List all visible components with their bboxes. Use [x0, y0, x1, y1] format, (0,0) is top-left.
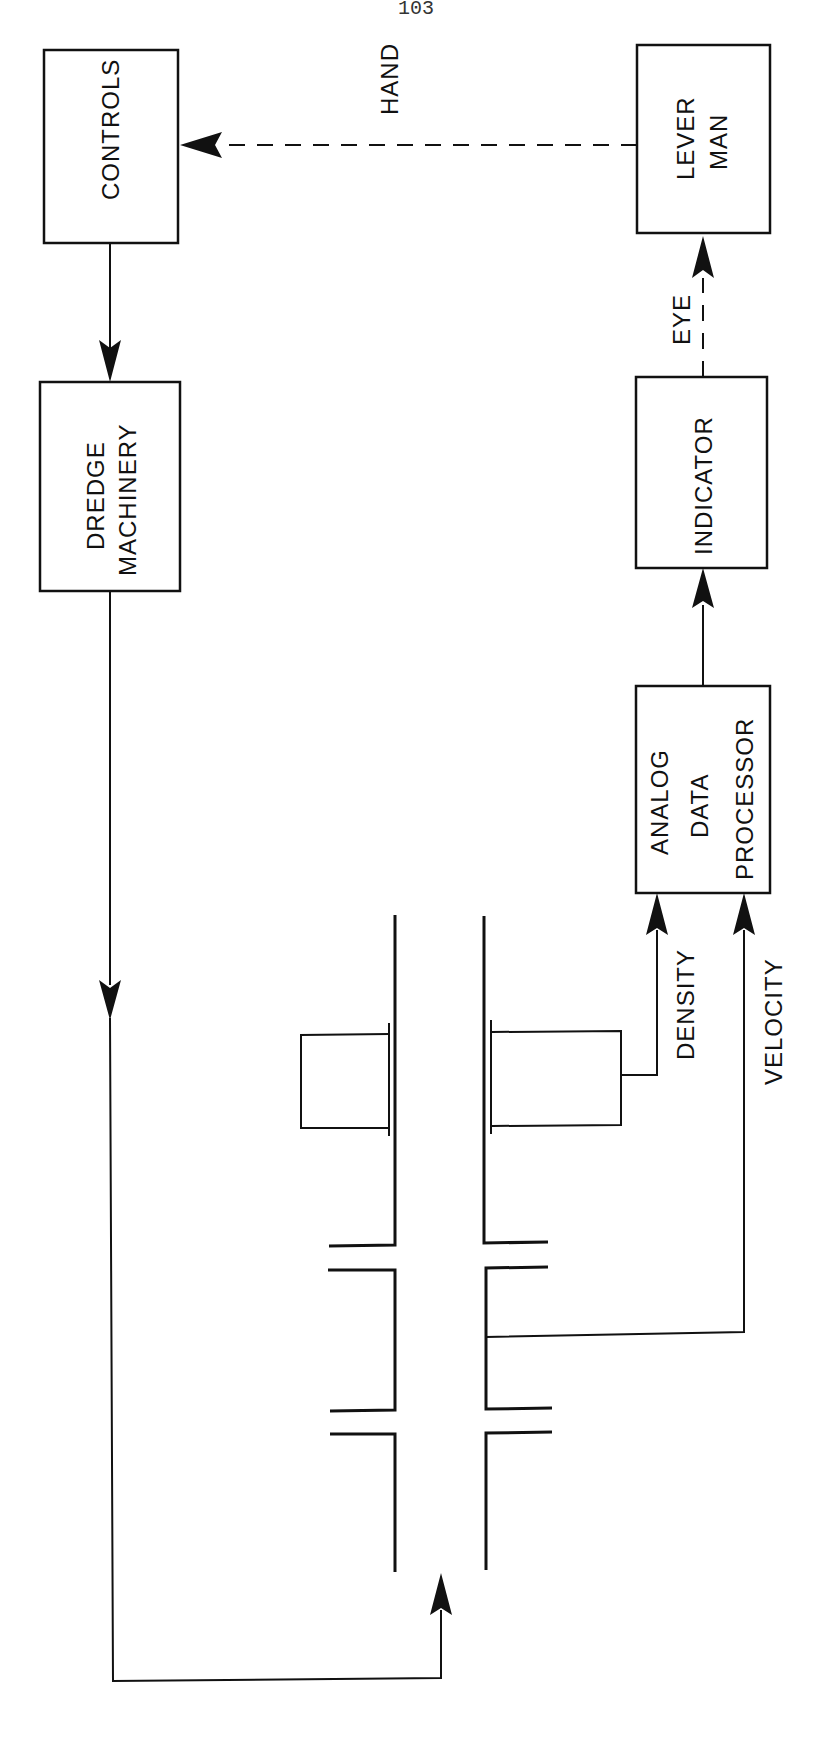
dredge-to-pipeline-link [99, 591, 452, 1681]
processor-to-indicator-link [692, 568, 714, 686]
arrowhead-up-icon [692, 236, 714, 278]
processor-label-line2: DATA [686, 774, 713, 838]
eye-label: EYE [668, 294, 695, 345]
dredge-machinery-block: DREDGE MACHINERY [40, 382, 180, 591]
processor-label-line3: PROCESSOR [731, 718, 758, 880]
analog-data-processor-block: ANALOG DATA PROCESSOR [636, 686, 770, 893]
arrowhead-up-icon [430, 1573, 452, 1615]
hand-signal: HAND [180, 43, 637, 158]
dredge-control-diagram: 103 CONTROLS HAND LEVER MAN DREDGE MACHI… [0, 0, 818, 1745]
velocity-label: VELOCITY [760, 958, 787, 1085]
dredge-label-line1: DREDGE [82, 441, 109, 550]
indicator-block: INDICATOR [636, 377, 767, 568]
velocity-signal: VELOCITY [486, 893, 787, 1337]
lever-man-block: LEVER MAN [637, 45, 770, 233]
lever-man-label-line1: LEVER [672, 96, 699, 180]
arrowhead-down-icon [99, 980, 121, 1020]
arrowhead-up-icon [733, 893, 755, 935]
hand-label: HAND [376, 43, 403, 115]
lever-man-label-line2: MAN [705, 114, 732, 170]
arrowhead-left-icon [180, 132, 222, 158]
density-sensor-left [301, 1023, 389, 1136]
density-signal: DENSITY [622, 893, 699, 1075]
page-number: 103 [398, 0, 434, 20]
indicator-label: INDICATOR [690, 416, 717, 555]
arrowhead-up-icon [646, 893, 668, 935]
processor-label-line1: ANALOG [646, 749, 673, 855]
eye-signal: EYE [668, 236, 714, 377]
controls-to-dredge-link [99, 243, 121, 382]
density-sensor-right [491, 1020, 621, 1134]
density-label: DENSITY [672, 949, 699, 1060]
arrowhead-up-icon [692, 568, 714, 608]
controls-label: CONTROLS [97, 59, 124, 200]
dredge-label-line2: MACHINERY [114, 423, 141, 576]
controls-block: CONTROLS [44, 50, 178, 243]
pipeline [328, 915, 552, 1572]
